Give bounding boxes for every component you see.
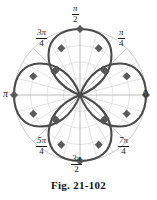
fraction-numerator: 5π — [36, 136, 47, 145]
angle-label-three-pi-over-2: 3π 2 — [71, 154, 82, 174]
fraction-numerator: π — [118, 28, 125, 37]
angle-label-pi: π — [3, 89, 8, 99]
fraction-denominator: 4 — [118, 147, 129, 156]
fraction-denominator: 2 — [72, 15, 79, 24]
angle-label-pi-over-2: π 2 — [72, 4, 79, 24]
fraction-numerator: 3π — [36, 28, 47, 37]
fraction-numerator: π — [72, 4, 79, 13]
polar-chart-svg — [0, 0, 157, 176]
angle-label-pi-over-4: π 4 — [118, 28, 125, 48]
fraction-numerator: 7π — [118, 136, 129, 145]
fraction-pi-over-2: π 2 — [72, 4, 79, 24]
figure-container: 0 π 4 π 2 3π 4 π 5π — [0, 0, 157, 200]
fraction-denominator: 4 — [36, 147, 47, 156]
angle-label-seven-pi-over-4: 7π 4 — [118, 136, 129, 156]
fraction-five-pi-over-4: 5π 4 — [36, 136, 47, 156]
fraction-three-pi-over-4: 3π 4 — [36, 28, 47, 48]
angle-label-three-pi-over-4: 3π 4 — [36, 28, 47, 48]
fraction-denominator: 4 — [36, 39, 47, 48]
figure-caption: Fig. 21-102 — [0, 179, 157, 191]
fraction-numerator: 3π — [71, 154, 82, 163]
fraction-seven-pi-over-4: 7π 4 — [118, 136, 129, 156]
fraction-pi-over-4: π 4 — [118, 28, 125, 48]
fraction-denominator: 2 — [71, 165, 82, 174]
polar-plot: 0 π 4 π 2 3π 4 π 5π — [0, 0, 157, 176]
angle-label-0: 0 — [143, 89, 148, 99]
fraction-three-pi-over-2: 3π 2 — [71, 154, 82, 174]
fraction-denominator: 4 — [118, 39, 125, 48]
angle-label-five-pi-over-4: 5π 4 — [36, 136, 47, 156]
